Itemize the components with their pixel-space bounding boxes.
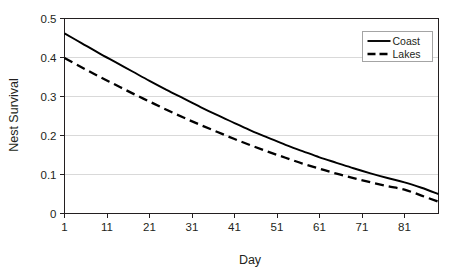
x-tick-label: 21 <box>143 221 156 233</box>
y-tick-label: 0 <box>50 208 56 220</box>
y-axis-title: Nest Survival <box>7 78 21 152</box>
x-tick-label: 11 <box>101 221 113 233</box>
x-tick-label: 1 <box>61 221 67 233</box>
y-tick-label: 0.5 <box>41 13 57 25</box>
legend-label-coast[interactable]: Coast <box>393 35 421 47</box>
legend-label-lakes[interactable]: Lakes <box>393 48 421 60</box>
x-tick-label: 81 <box>398 221 411 233</box>
x-tick-label: 51 <box>271 221 284 233</box>
x-tick-label: 61 <box>313 221 326 233</box>
x-tick-label: 71 <box>356 221 369 233</box>
x-tick-label: 31 <box>186 221 199 233</box>
y-tick-label: 0.2 <box>41 130 57 142</box>
x-axis-title: Day <box>239 253 262 267</box>
y-tick-label: 0.1 <box>41 169 57 181</box>
y-tick-label: 0.4 <box>41 52 58 64</box>
chart-canvas: 11121314151617181 00.10.20.30.40.5 Coast… <box>0 0 456 273</box>
x-tick-label: 41 <box>228 221 241 233</box>
nest-survival-chart: 11121314151617181 00.10.20.30.40.5 Coast… <box>0 0 456 273</box>
y-tick-label: 0.3 <box>41 91 57 103</box>
chart-legend[interactable]: CoastLakes <box>363 32 433 62</box>
